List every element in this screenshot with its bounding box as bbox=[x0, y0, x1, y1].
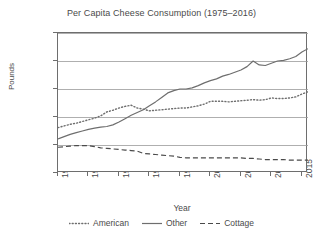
legend-swatch-solid bbox=[142, 220, 162, 227]
gridlines bbox=[58, 34, 308, 174]
legend-label: Other bbox=[166, 219, 187, 228]
legend-label: American bbox=[93, 219, 129, 228]
series-line-american bbox=[58, 92, 308, 128]
x-axis-label: Year bbox=[57, 203, 307, 213]
chart-legend: AmericanOtherCottage bbox=[0, 219, 323, 228]
legend-item-other[interactable]: Other bbox=[142, 219, 187, 228]
legend-item-cottage[interactable]: Cottage bbox=[200, 219, 254, 228]
plot-area bbox=[57, 32, 307, 172]
series-line-other bbox=[58, 49, 308, 139]
chart-figure: Per Capita Cheese Consumption (1975–2016… bbox=[0, 0, 323, 239]
legend-label: Cottage bbox=[224, 219, 254, 228]
chart-title: Per Capita Cheese Consumption (1975–2016… bbox=[0, 8, 323, 18]
legend-swatch-dotted bbox=[69, 220, 89, 227]
plot-svg bbox=[58, 33, 308, 173]
series-line-cottage bbox=[58, 146, 308, 161]
legend-swatch-dashed bbox=[200, 220, 220, 227]
legend-item-american[interactable]: American bbox=[69, 219, 129, 228]
y-axis-label: Pounds bbox=[7, 47, 16, 107]
series-lines bbox=[58, 49, 308, 160]
